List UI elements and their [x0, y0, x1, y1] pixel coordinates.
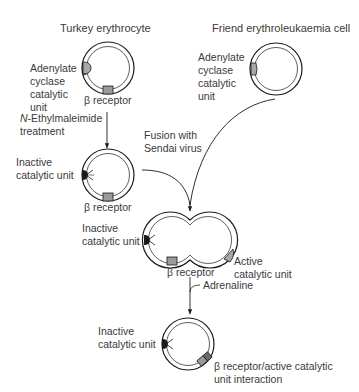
inactive-catalytic-unit-icon: [162, 339, 173, 349]
cell-nem-treated: [82, 149, 134, 201]
inactive-catalytic-unit-icon: [82, 170, 94, 180]
fused-receptor-label: β receptor: [167, 266, 214, 279]
catalytic-unit-icon: [251, 63, 257, 75]
beta-receptor-icon: [103, 86, 113, 94]
adrenaline-label: Adrenaline: [203, 279, 253, 292]
title-friend-cell: Friend erythroleukaemia cell: [212, 22, 350, 35]
receptor-catalytic-complex-icon: [197, 352, 212, 366]
diagram-canvas: [0, 0, 359, 392]
fusion-curve-from-friend: [190, 99, 275, 205]
beta-receptor-icon: [103, 193, 113, 201]
cell-turkey-erythrocyte: [82, 42, 134, 94]
cell-fused: [142, 212, 237, 268]
cell-friend-erythroleukaemia: [250, 43, 302, 95]
fusion-curve-from-erythrocyte: [142, 170, 190, 205]
inactive-catalytic-unit-icon: [144, 235, 155, 245]
title-turkey-erythrocyte: Turkey erythrocyte: [60, 22, 151, 35]
cell3-receptor-label: β receptor: [84, 201, 131, 214]
cell1-receptor-label: β receptor: [84, 94, 131, 107]
beta-receptor-icon: [167, 257, 177, 265]
cell-final: [162, 318, 214, 370]
